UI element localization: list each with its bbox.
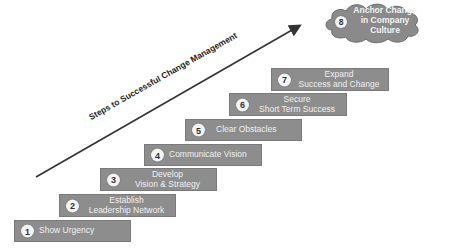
step-number-badge: 1 [21, 225, 34, 238]
final-step-line2: in Company [345, 15, 425, 25]
step-label-line1: Clear Obstacles [216, 125, 276, 135]
change-management-diagram: Steps to Successful Change Management 1 … [0, 0, 465, 252]
step-number-badge: 3 [107, 173, 120, 186]
final-step-label: Anchor Change in Company Culture [345, 5, 425, 35]
step-5: 5 Clear Obstacles [185, 119, 302, 141]
final-step-line1: Anchor Change [345, 5, 425, 15]
step-number-badge: 6 [236, 98, 249, 111]
step-number-badge: 4 [151, 149, 164, 162]
step-label-line1: Show Urgency [39, 226, 94, 236]
step-2: 2 Establish Leadership Network [59, 194, 176, 217]
step-7: 7 Expand Success and Change [271, 68, 389, 91]
step-3: 3 Develop Vision & Strategy [100, 168, 217, 191]
step-label-line2: Vision & Strategy [135, 180, 200, 190]
step-label-line2: Short Term Success [259, 105, 335, 115]
step-1: 1 Show Urgency [14, 220, 131, 242]
step-6: 6 Secure Short Term Success [229, 93, 347, 116]
step-number-badge: 2 [66, 199, 79, 212]
step-number-badge: 7 [278, 73, 291, 86]
step-label-line2: Success and Change [299, 80, 380, 90]
step-number-badge: 5 [192, 124, 205, 137]
step-4: 4 Communicate Vision [144, 144, 262, 166]
step-label-line1: Communicate Vision [169, 150, 247, 160]
final-step-line3: Culture [345, 25, 425, 35]
step-label-line2: Leadership Network [89, 206, 165, 216]
